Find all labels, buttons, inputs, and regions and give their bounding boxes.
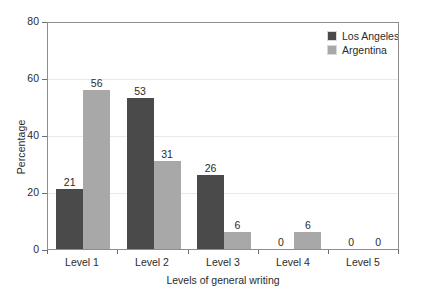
bar-slot-level-2-los-angeles: 53 xyxy=(127,22,154,249)
bar-chart: Percentage 0 20 40 60 80 21 xyxy=(0,0,431,295)
legend-label-argentina: Argentina xyxy=(342,44,387,56)
bar-value-level-1-los-angeles: 21 xyxy=(64,177,76,188)
x-label-level-5: Level 5 xyxy=(346,256,380,268)
y-tick-label-0: 0 xyxy=(33,243,39,255)
y-tick-80: 80 xyxy=(0,22,47,23)
y-tick-label-40: 40 xyxy=(27,129,39,141)
y-axis-title: Percentage xyxy=(15,57,29,237)
bar-slot-level-3-los-angeles: 26 xyxy=(197,22,224,249)
x-tick-mark-1 xyxy=(117,250,118,254)
legend-label-los-angeles: Los Angeles xyxy=(342,30,399,42)
bar-level-2-argentina[interactable] xyxy=(154,161,181,249)
y-tick-60: 60 xyxy=(0,79,47,80)
bar-value-level-1-argentina: 56 xyxy=(91,78,103,89)
y-tick-40: 40 xyxy=(0,136,47,137)
bar-group-level-4: 0 6 xyxy=(259,22,329,249)
bar-group-level-1: 21 56 xyxy=(48,22,118,249)
x-label-level-3: Level 3 xyxy=(206,256,240,268)
x-tick-mark-5 xyxy=(398,250,399,254)
y-tick-label-60: 60 xyxy=(27,72,39,84)
y-tick-20: 20 xyxy=(0,193,47,194)
bar-value-level-3-los-angeles: 26 xyxy=(205,163,217,174)
bar-value-level-5-argentina: 0 xyxy=(375,237,381,248)
x-label-level-4: Level 4 xyxy=(276,256,310,268)
bar-value-level-5-los-angeles: 0 xyxy=(348,237,354,248)
bar-level-1-argentina[interactable] xyxy=(83,90,110,249)
bar-value-level-4-argentina: 6 xyxy=(305,220,311,231)
bar-level-2-los-angeles[interactable] xyxy=(127,98,154,249)
bar-value-level-3-argentina: 6 xyxy=(235,220,241,231)
bar-level-3-argentina[interactable] xyxy=(224,232,251,249)
bar-value-level-2-los-angeles: 53 xyxy=(134,86,146,97)
bar-slot-level-3-argentina: 6 xyxy=(224,22,251,249)
bar-level-3-los-angeles[interactable] xyxy=(197,175,224,249)
x-tick-mark-4 xyxy=(328,250,329,254)
bar-slot-level-1-argentina: 56 xyxy=(83,22,110,249)
bar-group-level-2: 53 31 xyxy=(118,22,188,249)
bar-value-level-2-argentina: 31 xyxy=(161,149,173,160)
x-tick-mark-3 xyxy=(258,250,259,254)
y-tick-0: 0 xyxy=(0,250,47,251)
x-label-level-2: Level 2 xyxy=(135,256,169,268)
x-axis-title: Levels of general writing xyxy=(47,274,399,286)
legend-entry-argentina[interactable]: Argentina xyxy=(327,44,399,56)
bar-slot-level-2-argentina: 31 xyxy=(154,22,181,249)
legend-swatch-argentina-icon xyxy=(327,45,337,55)
plot-area: 21 56 53 31 xyxy=(47,22,399,250)
x-tick-mark-2 xyxy=(188,250,189,254)
bar-value-level-4-los-angeles: 0 xyxy=(278,237,284,248)
bar-level-4-argentina[interactable] xyxy=(294,232,321,249)
x-label-level-1: Level 1 xyxy=(65,256,99,268)
legend: Los Angeles Argentina xyxy=(327,30,399,58)
y-tick-label-20: 20 xyxy=(27,186,39,198)
bar-slot-level-1-los-angeles: 21 xyxy=(56,22,83,249)
legend-entry-los-angeles[interactable]: Los Angeles xyxy=(327,30,399,42)
bar-slot-level-4-los-angeles: 0 xyxy=(267,22,294,249)
x-tick-mark-0 xyxy=(47,250,48,254)
bar-level-1-los-angeles[interactable] xyxy=(56,189,83,249)
y-tick-label-80: 80 xyxy=(27,15,39,27)
bar-slot-level-4-argentina: 6 xyxy=(294,22,321,249)
bar-group-level-3: 26 6 xyxy=(189,22,259,249)
legend-swatch-los-angeles-icon xyxy=(327,31,337,41)
